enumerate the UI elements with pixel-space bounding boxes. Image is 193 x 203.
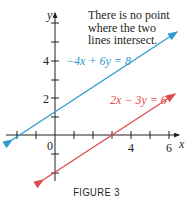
figure-caption: FIGURE 3 bbox=[14, 186, 178, 198]
line-blue bbox=[12, 32, 177, 140]
x-tick-label-4: 4 bbox=[128, 141, 134, 156]
y-axis-label: y bbox=[47, 8, 52, 23]
x-tick-label-6: 6 bbox=[166, 141, 172, 156]
red-line-equation: 2x − 3y = 6 bbox=[110, 93, 167, 108]
y-tick-label-2: 2 bbox=[43, 92, 49, 107]
x-axis-label: x bbox=[179, 137, 184, 152]
y-tick-label-4: 4 bbox=[43, 54, 49, 69]
annotation-note: There is no point where the two lines in… bbox=[88, 9, 170, 47]
x-tick-label-0: 0 bbox=[47, 139, 53, 154]
blue-line-equation: −4x + 6y = 8 bbox=[66, 54, 131, 69]
